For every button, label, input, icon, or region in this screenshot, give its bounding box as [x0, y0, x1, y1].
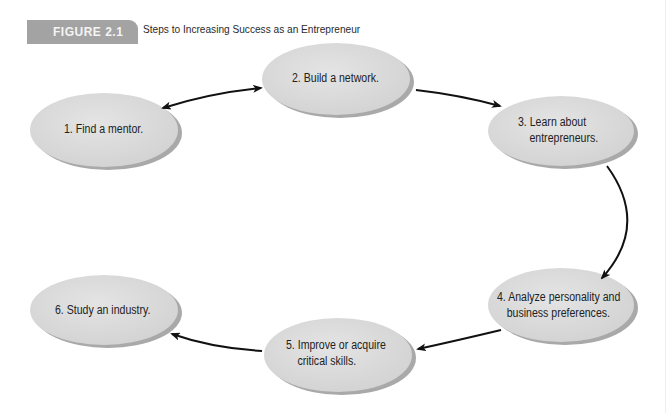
arrow-3-to-4 [602, 166, 627, 278]
node-1-line-1: 1. Find a mentor. [64, 121, 143, 137]
node-5-label: 5. Improve or acquire critical skills. [286, 337, 386, 369]
node-2-label: 2. Build a network. [292, 70, 379, 86]
arrow-1-to-2-bidirectional [163, 88, 261, 108]
node-3-line-2: entrepreneurs. [518, 130, 598, 146]
node-4-line-1: 4. Analyze personality and [497, 289, 620, 305]
arrow-5-to-6 [172, 334, 262, 351]
node-3-line-1: 3. Learn about [518, 114, 598, 130]
node-3-label: 3. Learn about entrepreneurs. [518, 114, 598, 146]
arrow-4-to-5 [418, 330, 501, 349]
arrow-2-to-3 [416, 90, 500, 106]
node-4-label: 4. Analyze personality and business pref… [497, 289, 620, 321]
node-2-line-1: 2. Build a network. [292, 70, 379, 86]
node-6-line-1: 6. Study an industry. [55, 302, 150, 318]
node-6-label: 6. Study an industry. [55, 302, 150, 318]
node-5-line-1: 5. Improve or acquire [286, 337, 386, 353]
node-4-line-2: business preferences. [497, 305, 620, 321]
node-5-line-2: critical skills. [286, 353, 386, 369]
node-1-label: 1. Find a mentor. [64, 121, 143, 137]
